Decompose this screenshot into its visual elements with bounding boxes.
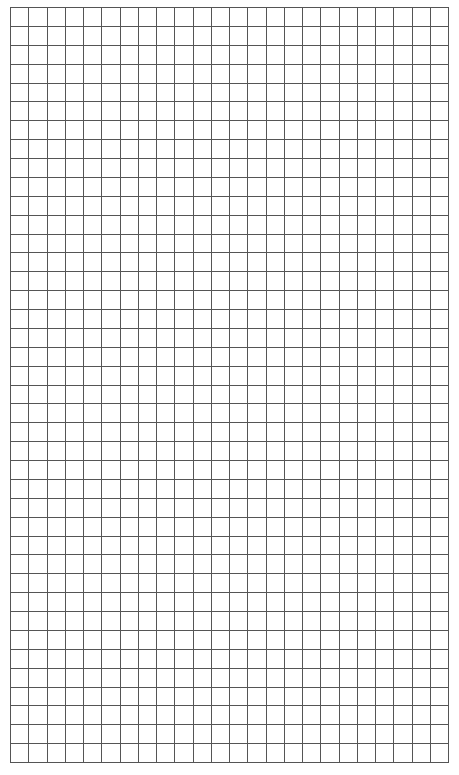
grid-paper <box>10 7 449 763</box>
